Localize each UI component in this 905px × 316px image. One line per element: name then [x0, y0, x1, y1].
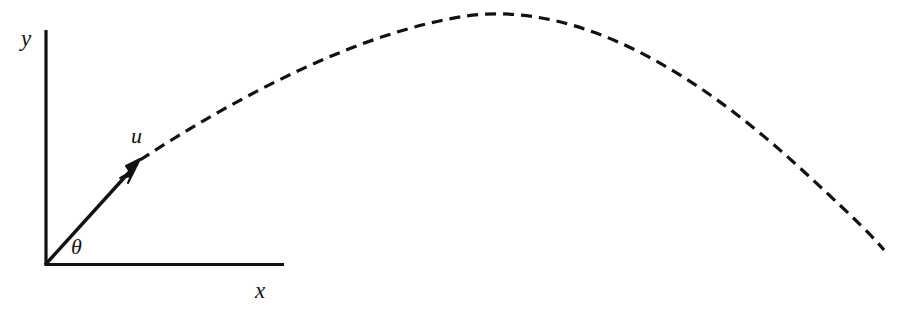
trajectory-path — [140, 14, 884, 250]
projectile-motion-figure: y x u θ — [0, 0, 905, 316]
x-axis-label: x — [255, 279, 265, 302]
velocity-vector-shaft — [45, 168, 133, 265]
angle-label-theta: θ — [71, 236, 82, 258]
velocity-label: u — [131, 125, 142, 147]
y-axis-label: y — [21, 27, 31, 50]
projectile-diagram-canvas — [0, 0, 905, 316]
